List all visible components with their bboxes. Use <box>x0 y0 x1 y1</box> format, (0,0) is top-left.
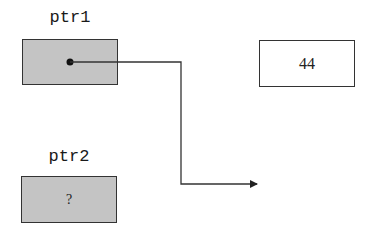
memory-cell-value: 44 <box>299 55 315 73</box>
memory-cell-44: 44 <box>259 40 355 87</box>
ptr1-box <box>22 39 118 85</box>
ptr1-label: ptr1 <box>22 8 118 28</box>
ptr2-content: ? <box>66 192 72 208</box>
pointer-diagram: ptr1 44 ptr2 ? <box>0 0 379 240</box>
ptr2-label: ptr2 <box>21 147 117 167</box>
ptr2-box: ? <box>21 176 117 223</box>
